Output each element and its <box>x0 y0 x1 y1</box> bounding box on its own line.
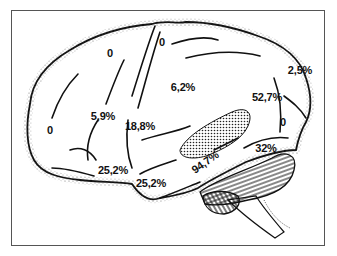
region-label-precentral-top: 0 <box>159 36 165 48</box>
region-label-temporal-posterior: 32% <box>255 142 276 154</box>
region-label-occipital: 0 <box>280 116 286 128</box>
region-label-temporal-pole: 25,2% <box>136 177 166 189</box>
region-label-superior-frontal: 0 <box>107 47 113 59</box>
region-label-middle-frontal: 5,9% <box>91 110 115 122</box>
region-label-precentral-lower: 18,8% <box>125 120 155 132</box>
region-label-inferior-frontal: 25,2% <box>98 164 128 176</box>
cerebellum-lower <box>203 192 239 215</box>
region-label-superior-temporal-upper: 52,7% <box>252 91 282 103</box>
region-label-parietal: 2,5% <box>288 64 312 76</box>
region-label-frontal-pole: 0 <box>47 124 53 136</box>
region-label-postcentral: 6,2% <box>171 81 195 93</box>
